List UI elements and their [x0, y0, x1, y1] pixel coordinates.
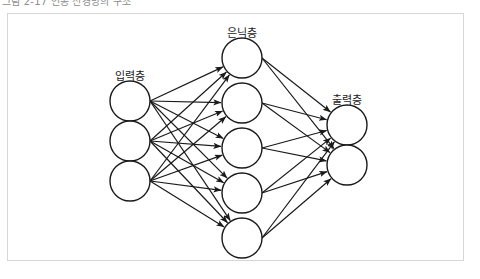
hidden-node-3 [222, 128, 262, 168]
output-layer-label: 출력층 [332, 94, 362, 107]
edge-input-hidden-3-5 [150, 181, 224, 227]
input-layer-nodes [110, 81, 150, 201]
edge-hidden-output-1-2 [262, 58, 334, 149]
edges-hidden-to-output [262, 58, 334, 238]
output-node-1 [327, 105, 367, 145]
hidden-layer-label: 은닉층 [227, 27, 257, 40]
hidden-node-4 [222, 173, 262, 213]
edge-input-hidden-1-5 [150, 101, 230, 221]
input-node-2 [110, 121, 150, 161]
hidden-node-5 [222, 218, 262, 258]
hidden-layer-nodes [222, 38, 262, 258]
edge-hidden-output-5-2 [262, 179, 331, 238]
edge-input-hidden-3-2 [150, 117, 226, 181]
edges-input-to-hidden [150, 67, 230, 227]
edge-hidden-output-4-1 [262, 138, 331, 193]
input-node-3 [110, 161, 150, 201]
edge-input-hidden-2-3 [150, 141, 221, 146]
neural-network-diagram [0, 0, 480, 279]
output-node-2 [327, 145, 367, 185]
edge-input-hidden-2-5 [150, 141, 228, 223]
hidden-node-2 [222, 83, 262, 123]
hidden-node-1 [222, 38, 262, 78]
edge-input-hidden-1-1 [150, 67, 223, 101]
edge-hidden-output-3-1 [262, 130, 327, 148]
input-node-1 [110, 81, 150, 121]
edge-input-hidden-3-4 [150, 181, 221, 190]
input-layer-label: 입력층 [115, 70, 145, 83]
edge-input-hidden-3-3 [150, 155, 222, 181]
edge-input-hidden-3-1 [150, 75, 229, 181]
output-layer-nodes [327, 105, 367, 185]
edge-hidden-output-1-1 [262, 58, 331, 112]
edge-hidden-output-2-1 [262, 103, 327, 120]
